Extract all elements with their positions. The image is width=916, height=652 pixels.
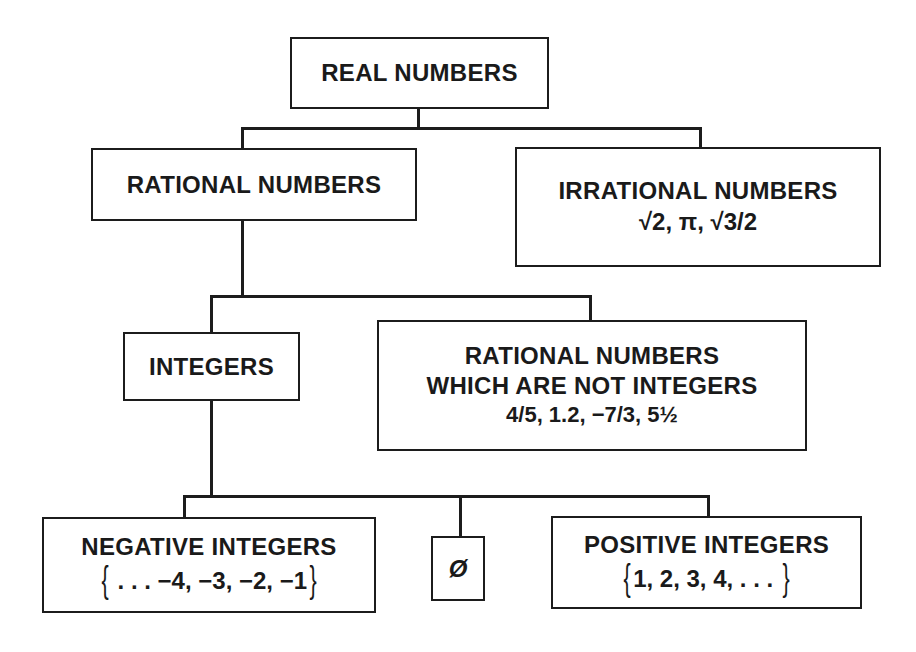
node-label: INTEGERS — [149, 352, 274, 382]
brace-open-icon: { — [101, 562, 108, 598]
node-real-numbers: REAL NUMBERS — [290, 37, 549, 109]
connector-to-rational — [241, 127, 244, 150]
connector-to-negative — [183, 495, 186, 518]
connector-rational-down — [241, 219, 244, 297]
node-integers: INTEGERS — [123, 332, 300, 401]
brace-close-icon: } — [782, 560, 789, 596]
connector-rational-branch — [210, 295, 592, 298]
node-negative-integers: NEGATIVE INTEGERS { . . . −4, −3, −2, −1… — [42, 517, 376, 613]
node-label: RATIONAL NUMBERS — [127, 170, 382, 200]
connector-to-non-integers — [589, 295, 592, 321]
node-label: REAL NUMBERS — [321, 58, 518, 88]
node-positive-integers: POSITIVE INTEGERS {1, 2, 3, 4, . . . } — [551, 516, 862, 609]
number-classification-diagram: REAL NUMBERS RATIONAL NUMBERS IRRATIONAL… — [0, 0, 916, 652]
connector-real-down — [417, 108, 420, 129]
node-label-line1: RATIONAL NUMBERS — [465, 341, 720, 371]
node-examples-set: {1, 2, 3, 4, . . . } — [621, 560, 792, 596]
node-irrational-numbers: IRRATIONAL NUMBERS √2, π, √3/2 — [515, 147, 881, 267]
node-label-line2: WHICH ARE NOT INTEGERS — [426, 371, 757, 401]
node-non-integer-rationals: RATIONAL NUMBERS WHICH ARE NOT INTEGERS … — [377, 320, 807, 451]
node-zero: Ø — [431, 536, 485, 601]
node-rational-numbers: RATIONAL NUMBERS — [91, 148, 417, 221]
node-examples: 1, 2, 3, 4, . . . — [633, 565, 780, 592]
connector-real-branch — [241, 127, 702, 130]
connector-integers-down — [210, 399, 213, 497]
node-label: POSITIVE INTEGERS — [584, 530, 829, 560]
connector-to-positive — [707, 495, 710, 517]
connector-to-integers — [210, 295, 213, 334]
node-examples-set: { . . . −4, −3, −2, −1} — [99, 562, 319, 598]
node-examples: √2, π, √3/2 — [639, 206, 757, 237]
connector-integers-branch — [183, 495, 710, 498]
node-examples: 4/5, 1.2, −7/3, 5½ — [506, 401, 678, 430]
connector-to-irrational — [699, 127, 702, 148]
brace-open-icon: { — [624, 560, 631, 596]
node-label: IRRATIONAL NUMBERS — [558, 176, 837, 206]
brace-close-icon: } — [309, 562, 316, 598]
node-label: NEGATIVE INTEGERS — [81, 532, 336, 562]
node-examples: . . . −4, −3, −2, −1 — [111, 567, 307, 594]
connector-to-zero — [459, 495, 462, 537]
node-label: Ø — [449, 555, 468, 583]
